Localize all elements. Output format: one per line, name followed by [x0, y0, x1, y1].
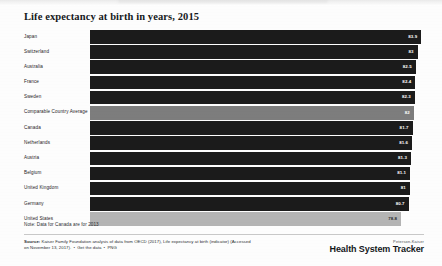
bar-row: Germany80.7 [24, 197, 424, 211]
bar[interactable]: 82.3 [90, 91, 415, 105]
bar-row-label: Netherlands [24, 141, 90, 146]
bar[interactable]: 81.7 [90, 121, 413, 135]
bar-row-label: Japan [24, 35, 90, 40]
bar-track: 81.3 [90, 152, 424, 166]
chart-note: Note: Data for Canada are for 2013 [24, 222, 99, 227]
bar[interactable]: 82.5 [90, 60, 416, 74]
bar-row-label: United Kingdom [24, 186, 90, 191]
bar-row-label: Comparable Country Average [24, 110, 90, 115]
bar[interactable]: 82 [90, 106, 414, 120]
bar[interactable]: 83.9 [90, 30, 421, 44]
bar-value-label: 82.5 [403, 65, 416, 69]
bar-row-label: Sweden [24, 95, 90, 100]
bar-value-label: 81.3 [398, 156, 411, 160]
bar-row-label: Australia [24, 65, 90, 70]
footer-divider [24, 234, 424, 235]
chart-page: Life expectancy at birth in years, 2015 … [0, 0, 442, 266]
bar[interactable]: 81.3 [90, 152, 411, 166]
bar-value-label: 82.4 [402, 80, 415, 84]
source-separator-2: • [103, 245, 107, 250]
bar-row: Canada81.7 [24, 121, 424, 135]
png-download-link[interactable]: PNG [107, 245, 116, 250]
bar-value-label: 81.7 [400, 126, 413, 130]
bar-row-label: Germany [24, 202, 90, 207]
bar-value-label: 81.6 [399, 141, 412, 145]
bar[interactable]: 81 [90, 182, 410, 196]
bar-value-label: 83.9 [408, 35, 421, 39]
bar[interactable]: 78.8 [90, 212, 401, 226]
bar-track: 83.9 [90, 30, 424, 44]
bar-row: Belgium81.1 [24, 167, 424, 181]
bar[interactable]: 81.1 [90, 167, 410, 181]
bar-value-label: 82 [405, 111, 414, 115]
bar-row: Australia82.5 [24, 60, 424, 74]
bar-row: Switzerland83 [24, 45, 424, 59]
bar-value-label: 81 [401, 186, 410, 190]
bar[interactable]: 82.4 [90, 76, 415, 90]
bar-row: Netherlands81.6 [24, 136, 424, 150]
bar-value-label: 83 [409, 50, 418, 54]
bar-track: 81 [90, 182, 424, 196]
bar-row-label: Belgium [24, 171, 90, 176]
bar-track: 82.4 [90, 76, 424, 90]
bar-track: 81.6 [90, 136, 424, 150]
bar[interactable]: 81.6 [90, 136, 412, 150]
health-system-tracker-logo[interactable]: Peterson-Kaiser Health System Tracker [330, 240, 424, 254]
bar-track: 80.7 [90, 197, 424, 211]
bar-row-label: Canada [24, 126, 90, 131]
bar-track: 82.5 [90, 60, 424, 74]
bar-track: 81.7 [90, 121, 424, 135]
bar-row: France82.4 [24, 76, 424, 90]
bar-track: 83 [90, 45, 424, 59]
page-top-edge [0, 0, 442, 6]
source-text: Kaiser Family Foundation analysis of dat… [24, 239, 251, 250]
logo-title: Health System Tracker [330, 245, 424, 254]
bar-track: 82.3 [90, 91, 424, 105]
bar-track: 81.1 [90, 167, 424, 181]
bar-chart: Japan83.9Switzerland83Australia82.5Franc… [24, 30, 424, 227]
bar-track: 78.8 [90, 212, 424, 226]
bar-row-label: Austria [24, 156, 90, 161]
bar-value-label: 81.1 [397, 171, 410, 175]
bar-row-label: Switzerland [24, 50, 90, 55]
bar-track: 82 [90, 106, 424, 120]
bar-row-label: United States [24, 217, 90, 222]
bar-value-label: 78.8 [388, 217, 401, 221]
bar-value-label: 80.7 [396, 202, 409, 206]
bar[interactable]: 83 [90, 45, 418, 59]
bar-value-label: 82.3 [402, 95, 415, 99]
bar-row: Japan83.9 [24, 30, 424, 44]
get-the-data-link[interactable]: Get the data [77, 245, 101, 250]
chart-source: Source: Kaiser Family Foundation analysi… [24, 239, 256, 251]
cropped-header-remnant [118, 0, 328, 3]
bar-row: United Kingdom81 [24, 182, 424, 196]
bar-row: Sweden82.3 [24, 91, 424, 105]
source-separator-1: • [72, 245, 76, 250]
bar-row-label: France [24, 80, 90, 85]
bar-row: Comparable Country Average82 [24, 106, 424, 120]
bar-row: Austria81.3 [24, 152, 424, 166]
source-label: Source: [24, 239, 40, 244]
chart-title: Life expectancy at birth in years, 2015 [24, 11, 199, 22]
bar[interactable]: 80.7 [90, 197, 409, 211]
